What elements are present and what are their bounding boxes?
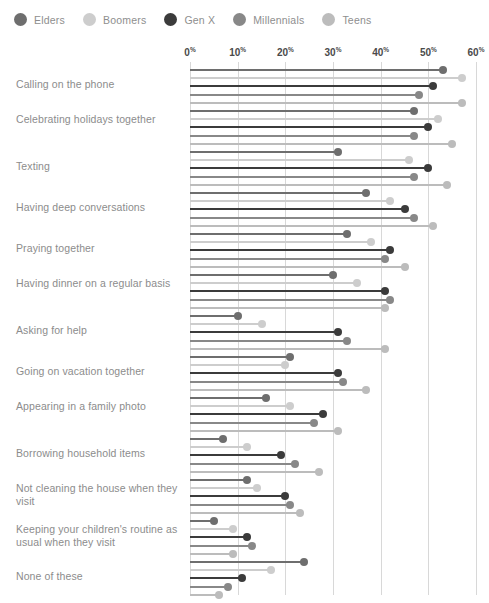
data-point-elders[interactable] — [243, 476, 251, 484]
data-point-millennials[interactable] — [286, 501, 294, 509]
data-point-millennials[interactable] — [410, 173, 418, 181]
data-row — [190, 476, 476, 484]
data-row — [190, 181, 476, 189]
data-point-millennials[interactable] — [248, 542, 256, 550]
data-point-millennials[interactable] — [310, 419, 318, 427]
data-point-elders[interactable] — [262, 394, 270, 402]
lollipop-stem — [190, 561, 304, 563]
data-point-millennials[interactable] — [410, 214, 418, 222]
data-point-teens[interactable] — [334, 427, 342, 435]
data-point-boomers[interactable] — [281, 361, 289, 369]
data-row — [190, 468, 476, 476]
data-point-teens[interactable] — [381, 345, 389, 353]
data-point-gen-x[interactable] — [319, 410, 327, 418]
data-point-elders[interactable] — [362, 189, 370, 197]
legend-item-boomers[interactable]: Boomers — [83, 13, 146, 26]
data-point-millennials[interactable] — [410, 132, 418, 140]
data-point-boomers[interactable] — [386, 197, 394, 205]
data-point-teens[interactable] — [458, 99, 466, 107]
data-point-teens[interactable] — [215, 591, 223, 599]
data-point-elders[interactable] — [300, 558, 308, 566]
data-point-teens[interactable] — [448, 140, 456, 148]
data-point-boomers[interactable] — [405, 156, 413, 164]
data-row — [190, 591, 476, 599]
data-point-elders[interactable] — [329, 271, 337, 279]
data-point-millennials[interactable] — [381, 255, 389, 263]
data-point-teens[interactable] — [429, 222, 437, 230]
data-point-elders[interactable] — [343, 230, 351, 238]
data-point-boomers[interactable] — [458, 74, 466, 82]
lollipop-stem — [190, 356, 290, 358]
data-point-elders[interactable] — [234, 312, 242, 320]
data-point-boomers[interactable] — [229, 525, 237, 533]
legend-item-teens[interactable]: Teens — [322, 13, 371, 26]
data-point-boomers[interactable] — [253, 484, 261, 492]
data-point-elders[interactable] — [210, 517, 218, 525]
data-row — [190, 123, 476, 131]
data-row — [190, 205, 476, 213]
data-point-teens[interactable] — [443, 181, 451, 189]
data-point-teens[interactable] — [362, 386, 370, 394]
lollipop-stem — [190, 397, 266, 399]
data-point-boomers[interactable] — [258, 320, 266, 328]
data-point-elders[interactable] — [334, 148, 342, 156]
data-point-teens[interactable] — [229, 550, 237, 558]
data-point-millennials[interactable] — [415, 91, 423, 99]
data-point-millennials[interactable] — [386, 296, 394, 304]
lollipop-stem — [190, 586, 228, 588]
data-point-teens[interactable] — [296, 509, 304, 517]
data-point-gen-x[interactable] — [281, 492, 289, 500]
data-point-elders[interactable] — [286, 353, 294, 361]
data-point-boomers[interactable] — [434, 115, 442, 123]
data-point-gen-x[interactable] — [386, 246, 394, 254]
data-point-boomers[interactable] — [286, 402, 294, 410]
data-point-millennials[interactable] — [343, 337, 351, 345]
data-point-gen-x[interactable] — [277, 451, 285, 459]
data-point-gen-x[interactable] — [424, 123, 432, 131]
data-point-gen-x[interactable] — [424, 164, 432, 172]
data-row — [190, 386, 476, 394]
data-point-boomers[interactable] — [353, 279, 361, 287]
data-point-millennials[interactable] — [339, 378, 347, 386]
lollipop-stem — [190, 495, 285, 497]
lollipop-stem — [190, 266, 405, 268]
data-point-gen-x[interactable] — [401, 205, 409, 213]
data-point-gen-x[interactable] — [243, 533, 251, 541]
data-row — [190, 74, 476, 82]
data-point-millennials[interactable] — [224, 583, 232, 591]
data-row — [190, 451, 476, 459]
lollipop-stem — [190, 307, 385, 309]
legend-item-elders[interactable]: Elders — [14, 13, 65, 26]
data-row — [190, 583, 476, 591]
data-point-gen-x[interactable] — [334, 328, 342, 336]
lollipop-stem — [190, 463, 295, 465]
legend-item-millennials[interactable]: Millennials — [233, 13, 304, 26]
data-point-millennials[interactable] — [291, 460, 299, 468]
data-row — [190, 173, 476, 181]
data-point-teens[interactable] — [315, 468, 323, 476]
lollipop-stem — [190, 364, 285, 366]
lollipop-stem — [190, 77, 462, 79]
data-point-teens[interactable] — [381, 304, 389, 312]
data-row — [190, 148, 476, 156]
lollipop-stem — [190, 85, 433, 87]
data-point-gen-x[interactable] — [334, 369, 342, 377]
data-point-boomers[interactable] — [243, 443, 251, 451]
legend-swatch-icon — [164, 13, 177, 26]
data-point-gen-x[interactable] — [238, 574, 246, 582]
data-row — [190, 574, 476, 582]
category-label: Going on vacation together — [16, 365, 186, 378]
data-point-boomers[interactable] — [267, 566, 275, 574]
lollipop-stem — [190, 151, 338, 153]
data-point-gen-x[interactable] — [381, 287, 389, 295]
legend-item-gen-x[interactable]: Gen X — [164, 13, 215, 26]
data-point-elders[interactable] — [410, 107, 418, 115]
data-point-teens[interactable] — [401, 263, 409, 271]
data-point-boomers[interactable] — [367, 238, 375, 246]
data-row — [190, 115, 476, 123]
data-point-elders[interactable] — [439, 66, 447, 74]
category-label: Borrowing household items — [16, 447, 186, 460]
data-point-elders[interactable] — [219, 435, 227, 443]
data-row — [190, 353, 476, 361]
data-point-gen-x[interactable] — [429, 82, 437, 90]
